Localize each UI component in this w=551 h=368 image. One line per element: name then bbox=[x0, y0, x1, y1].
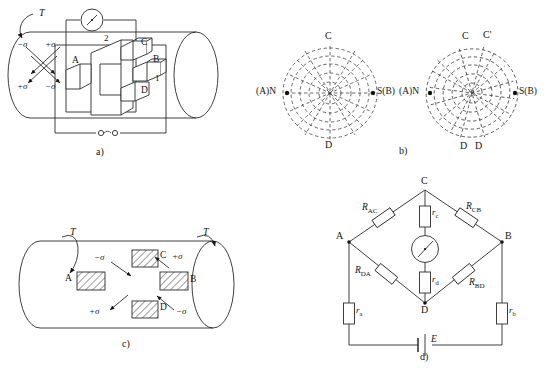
bridge-node-b: B bbox=[505, 231, 512, 241]
pad-label-c: C bbox=[160, 251, 166, 261]
winding-label-primary: 1 bbox=[155, 74, 160, 83]
stress-label-a-bottom-left: +σ bbox=[17, 82, 28, 91]
flux-label-right-top: C bbox=[462, 31, 469, 41]
resistor-label-ra-sub: a bbox=[360, 310, 363, 317]
resistor-label-rb-sub: b bbox=[513, 310, 516, 317]
flux-mesh-left bbox=[283, 46, 377, 140]
torque-label-a: T bbox=[39, 8, 45, 18]
resistor-label-ra: ra bbox=[356, 306, 362, 317]
resistor-label-rbd-sub: BD bbox=[475, 282, 485, 290]
resistor-label-rcb-sub: CB bbox=[472, 206, 481, 214]
flux-label-right-top-prime: C' bbox=[483, 30, 491, 40]
resistor-label-rbd: RBD bbox=[469, 278, 485, 290]
stress-label-c-top-right: +σ bbox=[172, 252, 183, 261]
caption-d: d) bbox=[420, 352, 428, 362]
flux-label-left-bottom: D bbox=[325, 140, 332, 150]
source-label-e: E bbox=[431, 335, 437, 345]
figure-canvas bbox=[0, 0, 551, 368]
winding-label-secondary: 2 bbox=[104, 34, 109, 43]
flux-label-right-south: S(B) bbox=[519, 87, 537, 97]
resistor-label-rd-sub: d bbox=[436, 279, 439, 286]
flux-label-right-north: (A)N bbox=[399, 87, 419, 97]
cross-core-a bbox=[66, 38, 166, 115]
stress-label-a-bottom-right: −σ bbox=[45, 82, 56, 91]
resistor-label-rda: RDA bbox=[355, 266, 371, 278]
core-label-c: C bbox=[141, 38, 147, 48]
resistor-label-rac: RAC bbox=[362, 203, 378, 215]
pad-label-d: D bbox=[160, 303, 167, 313]
stress-label-c-bottom-right: −σ bbox=[176, 307, 187, 316]
core-label-b: B bbox=[153, 55, 159, 65]
bridge-node-d: D bbox=[421, 305, 428, 315]
resistor-label-rc: rc bbox=[432, 208, 438, 219]
stress-label-a-top-right: +σ bbox=[45, 40, 56, 49]
stress-label-c-top-left: −σ bbox=[94, 253, 105, 262]
bridge-node-c: C bbox=[421, 176, 428, 186]
resistor-label-rd: rd bbox=[432, 275, 439, 286]
flux-label-left-south: S(B) bbox=[377, 87, 395, 97]
resistor-label-rb: rb bbox=[509, 306, 516, 317]
resistor-label-rc-sub: c bbox=[436, 212, 439, 219]
torque-label-c-left: T bbox=[70, 227, 76, 237]
core-label-d: D bbox=[141, 86, 148, 96]
pad-label-b: B bbox=[190, 275, 196, 285]
sensor-pad-a bbox=[77, 272, 105, 290]
stress-label-a-top-left: −σ bbox=[17, 40, 28, 49]
flux-label-left-north: (A)N bbox=[256, 87, 276, 97]
panel-c bbox=[19, 235, 234, 328]
flux-label-right-bottom-left: D bbox=[460, 141, 467, 151]
core-label-a: A bbox=[72, 56, 79, 66]
flux-label-right-bottom-right: D bbox=[475, 141, 482, 151]
caption-b: b) bbox=[399, 146, 407, 156]
panel-a bbox=[8, 9, 218, 136]
sensor-pad-d bbox=[132, 301, 158, 318]
resistor-label-rda-sub: DA bbox=[361, 270, 371, 278]
flux-label-left-top: C bbox=[325, 31, 332, 41]
bridge-node-a: A bbox=[336, 231, 343, 241]
shaft-cylinder-c bbox=[19, 241, 234, 328]
caption-c: c) bbox=[122, 339, 130, 349]
sensor-pad-b bbox=[160, 272, 188, 290]
sensor-pad-c bbox=[132, 250, 158, 267]
pad-label-a: A bbox=[65, 274, 72, 284]
galvanometer-icon bbox=[87, 15, 97, 25]
resistor-rda bbox=[375, 263, 398, 284]
resistor-label-rac-sub: AC bbox=[368, 207, 378, 215]
resistor-label-rcb: RCB bbox=[466, 202, 481, 214]
torque-label-c-right: T bbox=[203, 227, 209, 237]
caption-a: a) bbox=[96, 147, 104, 157]
stress-label-c-bottom-left: +σ bbox=[89, 307, 100, 316]
